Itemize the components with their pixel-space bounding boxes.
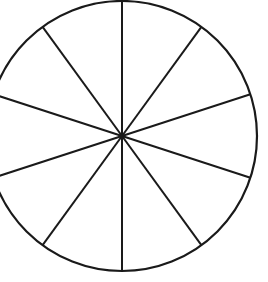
spoke-line-1	[122, 27, 201, 136]
spoke-line-6	[43, 136, 122, 245]
spoke-line-8	[0, 94, 122, 136]
spoke-line-3	[122, 136, 250, 178]
sector-spokes	[0, 1, 250, 271]
divided-circle-diagram	[0, 0, 268, 282]
spoke-line-2	[122, 94, 250, 136]
spoke-line-7	[0, 136, 122, 178]
circle-outline	[0, 1, 257, 271]
spoke-line-9	[43, 27, 122, 136]
spoke-line-4	[122, 136, 201, 245]
